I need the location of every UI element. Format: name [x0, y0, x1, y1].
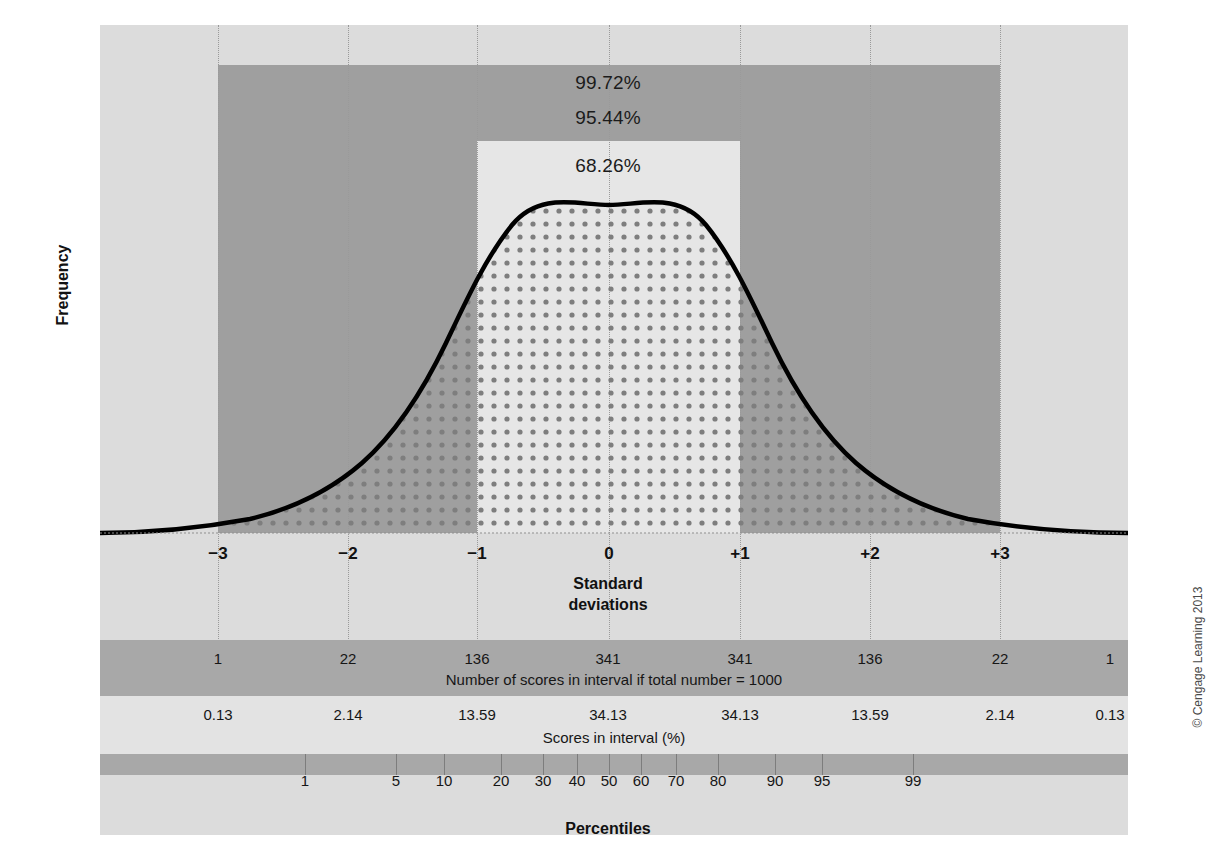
curve-dot-fill [100, 25, 1128, 545]
x-axis-label-standard-deviations: Standard deviations [508, 573, 708, 615]
row-scores-percent: 0.13 2.14 13.59 34.13 34.13 13.59 2.14 0… [100, 696, 1128, 754]
percentiles-axis-label: Percentiles [508, 820, 708, 838]
y-axis-label: Frequency [54, 215, 72, 355]
callout-68-26-percent: 68.26% [508, 155, 708, 177]
count-cell-6: 22 [945, 650, 1055, 667]
percentile-label-20: 20 [481, 772, 521, 789]
sd-label-line-1: Standard [573, 575, 642, 592]
counts-caption: Number of scores in interval if total nu… [100, 671, 1128, 688]
callout-99-72-percent: 99.72% [508, 72, 708, 94]
sd-tick-zero: 0 [579, 544, 639, 564]
normal-distribution-figure: 99.72% 95.44% 68.26% Frequency −3 −2 −1 … [0, 0, 1218, 858]
count-cell-3: 341 [553, 650, 663, 667]
sd-tick-minus-2: −2 [318, 544, 378, 564]
percent-cell-7: 0.13 [1055, 706, 1165, 723]
sd-tick-minus-3: −3 [188, 544, 248, 564]
copyright-notice: © Cengage Learning 2013 [1191, 572, 1205, 742]
sd-tick-plus-1: +1 [710, 544, 770, 564]
percentile-label-80: 80 [698, 772, 738, 789]
percent-cell-6: 2.14 [945, 706, 1055, 723]
percent-cell-2: 13.59 [422, 706, 532, 723]
percent-cell-1: 2.14 [293, 706, 403, 723]
count-cell-5: 136 [815, 650, 925, 667]
percent-cell-5: 13.59 [815, 706, 925, 723]
percentile-label-10: 10 [424, 772, 464, 789]
normal-curve-chart [100, 25, 1128, 545]
count-cell-4: 341 [685, 650, 795, 667]
percentile-label-60: 60 [621, 772, 661, 789]
percentile-label-90: 90 [755, 772, 795, 789]
percent-cell-4: 34.13 [685, 706, 795, 723]
callout-95-44-percent: 95.44% [508, 107, 708, 129]
percents-caption: Scores in interval (%) [100, 729, 1128, 746]
sd-tick-plus-2: +2 [840, 544, 900, 564]
count-cell-1: 22 [293, 650, 403, 667]
count-cell-2: 136 [422, 650, 532, 667]
row-scores-count: 1 22 136 341 341 136 22 1 Number of scor… [100, 640, 1128, 696]
percentile-label-1: 1 [285, 772, 325, 789]
sd-tick-minus-1: −1 [447, 544, 507, 564]
count-cell-0: 1 [163, 650, 273, 667]
percent-cell-0: 0.13 [163, 706, 273, 723]
count-cell-7: 1 [1055, 650, 1165, 667]
sd-label-line-2: deviations [568, 596, 647, 613]
percent-cell-3: 34.13 [553, 706, 663, 723]
percentile-label-70: 70 [656, 772, 696, 789]
percentile-label-5: 5 [376, 772, 416, 789]
percentile-label-99: 99 [893, 772, 933, 789]
sd-tick-plus-3: +3 [970, 544, 1030, 564]
percentile-label-95: 95 [802, 772, 842, 789]
